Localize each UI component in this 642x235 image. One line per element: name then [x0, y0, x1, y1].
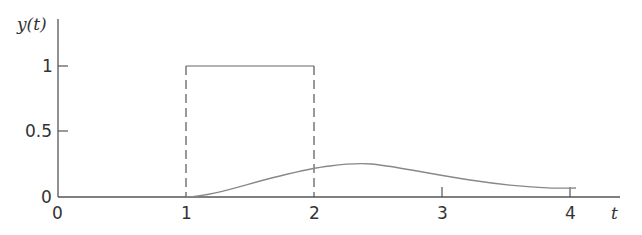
x-axis-label: t: [611, 203, 618, 223]
x-tick-label-0: 0: [52, 203, 63, 223]
y-tick-label-0: 0: [41, 187, 52, 207]
x-tick-label-4: 4: [565, 203, 576, 223]
x-tick-label-1: 1: [181, 203, 192, 223]
y-tick-label-0.5: 0.5: [25, 121, 52, 141]
x-tick-label-2: 2: [309, 203, 320, 223]
y-tick-label-1: 1: [42, 56, 53, 76]
chart: y(t) 1 0.5 0 0 1 2 3 4 t: [0, 0, 642, 235]
response-curve: [186, 164, 576, 197]
y-axis-label: y(t): [16, 14, 47, 34]
x-tick-label-3: 3: [437, 203, 448, 223]
